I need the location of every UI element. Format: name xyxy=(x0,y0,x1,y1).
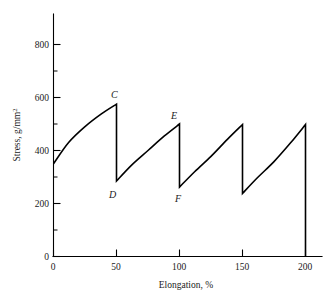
x-tick-label-200: 200 xyxy=(298,262,313,272)
point-label-E: E xyxy=(170,110,177,121)
chart-canvas: 0 200 400 600 800 0 50 100 150 200 C D E… xyxy=(0,0,332,296)
stress-elongation-curve xyxy=(54,104,306,256)
y-axis-ticks: 0 200 400 600 800 xyxy=(35,40,61,262)
stress-elongation-figure: 0 200 400 600 800 0 50 100 150 200 C D E… xyxy=(0,0,332,296)
y-tick-label-800: 800 xyxy=(35,40,50,50)
x-tick-label-150: 150 xyxy=(235,262,250,272)
y-axis-title-group: Stress, g/mm2 xyxy=(11,109,23,162)
x-axis-title: Elongation, % xyxy=(159,280,213,290)
y-tick-label-400: 400 xyxy=(35,146,50,156)
x-tick-label-0: 0 xyxy=(51,262,56,272)
point-label-F: F xyxy=(174,193,182,204)
y-axis-title-superscript: 2 xyxy=(11,109,18,112)
x-axis-ticks: 0 50 100 150 200 xyxy=(51,250,313,273)
y-tick-label-600: 600 xyxy=(35,93,50,103)
y-axis-title: Stress, g/mm2 xyxy=(11,109,23,162)
y-tick-label-0: 0 xyxy=(44,252,49,262)
point-label-D: D xyxy=(108,189,117,200)
x-tick-label-100: 100 xyxy=(172,262,187,272)
y-axis-title-text: Stress, g/mm xyxy=(12,111,22,161)
y-tick-label-200: 200 xyxy=(35,199,50,209)
curve-annotations: C D E F xyxy=(108,89,182,204)
axes-group xyxy=(53,14,322,257)
x-tick-label-50: 50 xyxy=(111,262,121,272)
point-label-C: C xyxy=(111,89,118,100)
